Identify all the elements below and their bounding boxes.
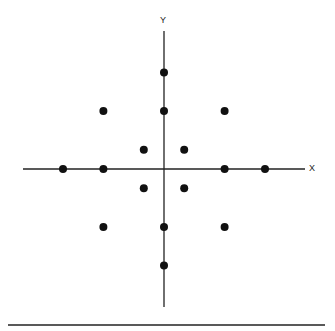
- data-point: [180, 184, 188, 192]
- point-lattice-diagram: [0, 0, 335, 331]
- data-point: [221, 165, 229, 173]
- data-point: [221, 223, 229, 231]
- data-point: [140, 184, 148, 192]
- data-point: [180, 146, 188, 154]
- data-point: [140, 146, 148, 154]
- data-point: [160, 69, 168, 77]
- data-point: [160, 107, 168, 115]
- x-axis-label: X: [309, 163, 315, 173]
- data-point: [99, 107, 107, 115]
- data-point: [160, 223, 168, 231]
- data-point: [99, 165, 107, 173]
- data-point: [99, 223, 107, 231]
- y-axis-label: Y: [160, 15, 166, 25]
- data-point: [160, 262, 168, 270]
- data-point: [261, 165, 269, 173]
- data-point: [59, 165, 67, 173]
- data-point: [221, 107, 229, 115]
